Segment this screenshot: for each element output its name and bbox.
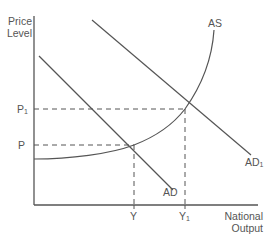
p-label: P xyxy=(18,139,25,151)
ad-as-diagram xyxy=(0,0,275,236)
ad-label: AD xyxy=(163,186,178,198)
p1-label: P1 xyxy=(17,103,28,118)
y-axis-label: Price Level xyxy=(4,15,32,39)
ad1-curve xyxy=(92,20,251,155)
y1-label: Y1 xyxy=(179,210,190,225)
x-axis-label-line2: Output xyxy=(220,222,263,234)
y-axis-label-line2: Level xyxy=(4,27,32,39)
y-label: Y xyxy=(130,210,137,222)
y-axis-label-line1: Price xyxy=(4,15,32,27)
x-axis-label-line1: National xyxy=(220,210,263,222)
ad-curve xyxy=(39,56,173,190)
as-label: AS xyxy=(208,17,222,29)
ad1-label: AD1 xyxy=(245,156,264,171)
as-curve xyxy=(34,30,214,159)
x-axis-label: National Output xyxy=(220,210,263,234)
